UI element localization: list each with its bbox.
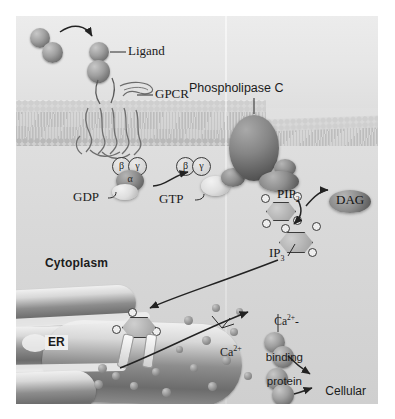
ip3-phosphate-node-c	[308, 248, 317, 257]
pip2-label-subscript: 2	[296, 194, 300, 203]
beta-glyph: β	[119, 160, 124, 171]
beta-glyph-2: β	[183, 160, 188, 171]
cabp-ca-sup: 2+	[287, 313, 295, 322]
cellular-response-label: Cellular response	[312, 369, 375, 404]
dag-label: DAG	[336, 193, 364, 207]
ca-binding-protein-label: Ca2+- binding protein	[238, 290, 318, 399]
gdp-molecule	[112, 184, 138, 200]
pip2-label-text: PIP	[277, 186, 296, 201]
gamma-glyph: γ	[135, 160, 139, 171]
ca-binding-protein-line1: Ca2+-	[257, 315, 299, 339]
ligand-label: Ligand	[128, 44, 165, 58]
calcium-ion-cytosol-2	[212, 304, 220, 312]
phospholipase-c-label: Phospholipase C	[189, 82, 284, 95]
g-protein-gamma-subunit-gtp: γ	[192, 157, 211, 176]
cabp-dash: -	[295, 315, 299, 327]
er-label: ER	[45, 335, 68, 350]
calcium-ion-lumen-3	[94, 380, 103, 389]
er-ip3-node-a	[128, 308, 137, 317]
pip2-phosphate-node-d	[293, 216, 302, 225]
ip3-label-subscript: 3	[281, 253, 285, 262]
ca-binding-protein-line3: protein	[267, 375, 302, 387]
ip3-label: IP3	[256, 232, 285, 276]
pip2-label: PIP2	[264, 173, 300, 217]
calcium-ion-lumen-2	[112, 372, 120, 380]
calcium-ion-cytosol-8	[208, 382, 217, 391]
cytoplasm-label: Cytoplasm	[45, 257, 108, 270]
calcium-ion-cytosol-1	[184, 316, 193, 325]
calcium-ion-cytosol-9	[176, 346, 183, 353]
er-ip3-node-b	[112, 325, 121, 334]
calcium-ion-lumen-4	[130, 382, 138, 390]
er-cisterna-bottom	[16, 370, 97, 404]
calcium-ion-lumen-1	[98, 364, 107, 373]
ip3-phosphate-node-b	[312, 222, 321, 231]
gdp-label: GDP	[73, 190, 99, 204]
calcium-ion-lumen-6	[162, 388, 171, 397]
calcium-ion-lumen-5	[152, 368, 160, 376]
cellular-response-line1: Cellular	[325, 384, 366, 398]
ip3-label-text: IP	[269, 245, 281, 260]
ca-binding-protein-line2: binding	[266, 351, 303, 363]
alpha-subunit-glyph: α	[116, 174, 144, 185]
gamma-glyph-2: γ	[199, 160, 203, 171]
figure-canvas: β γ α β γ	[16, 16, 378, 404]
calcium-ion-label: Ca2+	[208, 332, 242, 371]
pip2-phosphate-node-c	[262, 219, 271, 228]
gtp-label: GTP	[159, 192, 184, 206]
ligand-bound-sphere-a	[89, 42, 109, 62]
gpcr-label: GPCR	[155, 87, 189, 101]
calcium-ion-cytosol-6	[190, 364, 198, 372]
calcium-label-text: Ca	[220, 345, 233, 359]
cabp-ca-text: Ca	[274, 315, 287, 327]
ligand-free-sphere-b	[42, 42, 63, 63]
ligand-bound-sphere-b	[87, 60, 110, 83]
